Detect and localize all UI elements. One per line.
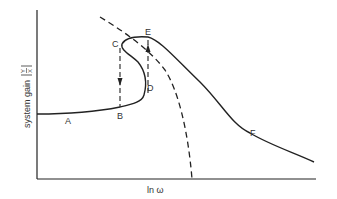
y-axis-label: system gain Y X — [20, 66, 33, 128]
y-axis-fraction-den: X — [27, 69, 33, 73]
y-axis-fraction-num: Y — [20, 69, 26, 73]
x-axis-label: ln ω — [147, 185, 164, 195]
arrow-down-icon — [118, 78, 123, 86]
frequency-response-diagram: A B C D E F ln ω system gain Y X — [0, 0, 337, 199]
y-axis-label-text: system gain — [22, 80, 32, 128]
arrow-up-icon — [146, 44, 151, 52]
label-a: A — [65, 116, 71, 126]
label-c: C — [112, 39, 119, 49]
label-f: F — [250, 128, 256, 138]
label-e: E — [145, 27, 151, 37]
label-b: B — [117, 111, 123, 121]
response-curve — [37, 37, 314, 162]
label-d: D — [147, 83, 154, 93]
